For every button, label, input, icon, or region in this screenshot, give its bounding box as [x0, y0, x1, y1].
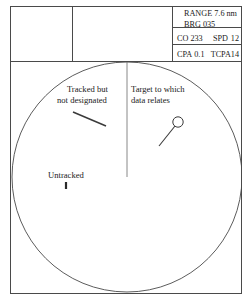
display-frame [10, 6, 242, 294]
radar-ppi-display: RANGE 7.6 nm BRG 035 CO 233 SPD 12 CPA 0… [0, 0, 250, 303]
